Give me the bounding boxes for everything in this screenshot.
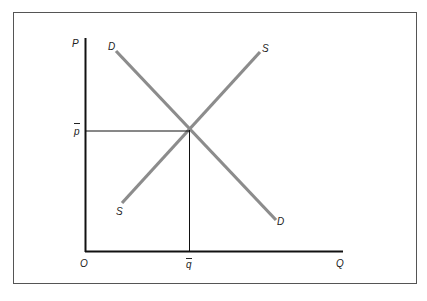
price-equilibrium-label-group: p xyxy=(73,124,80,138)
origin-label: O xyxy=(80,258,88,269)
supply-demand-diagram: P Q O D D S S p q xyxy=(0,0,427,301)
supply-start-label: S xyxy=(116,206,123,217)
supply-end-label: S xyxy=(262,43,269,54)
frame-border xyxy=(14,13,417,284)
demand-curve xyxy=(116,51,276,220)
price-equilibrium-label: p xyxy=(73,126,80,137)
quantity-equilibrium-label: q xyxy=(186,259,192,270)
y-axis-label: P xyxy=(72,38,79,49)
demand-end-label: D xyxy=(277,216,284,227)
demand-start-label: D xyxy=(108,41,115,52)
x-axis-label: Q xyxy=(336,258,344,269)
quantity-equilibrium-label-group: q xyxy=(186,259,192,271)
